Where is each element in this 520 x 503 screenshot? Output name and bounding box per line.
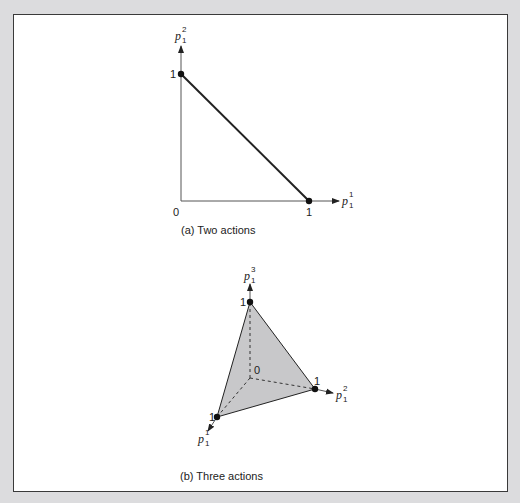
- simplex-segment: [181, 74, 309, 201]
- x-tick-label: 1: [306, 206, 312, 218]
- x-axis-label-sub: 1: [349, 201, 354, 210]
- y-axis-label-sup: 2: [182, 25, 187, 34]
- y-tick-label: 1: [170, 68, 176, 80]
- x-axis-label: p: [341, 194, 348, 208]
- origin-label: 0: [173, 206, 179, 218]
- x-axis-label-sup: 1: [349, 190, 354, 199]
- axis-2-label-sup: 2: [343, 384, 348, 393]
- vertex-2-label: 1: [314, 375, 320, 387]
- vertex-dot-y: [178, 71, 184, 77]
- vertex-3-label: 1: [240, 296, 246, 308]
- simplex-triangle: [217, 302, 315, 417]
- axis-2-label: p: [335, 388, 342, 402]
- axis-1-label-sup: 1: [205, 428, 210, 437]
- y-axis-label-sub: 1: [182, 36, 187, 45]
- axis-1-label-sub: 1: [205, 439, 210, 448]
- vertex-dot-3: [247, 299, 253, 305]
- axis-3-label-sub: 1: [251, 276, 256, 285]
- simplex-figure: p 1 2 1 0 1 p 1 1 (a) Two actions p 1 3: [0, 0, 520, 503]
- axis-2-label-sub: 1: [343, 395, 348, 404]
- caption-b: (b) Three actions: [180, 470, 263, 482]
- vertex-dot-x: [306, 198, 312, 204]
- caption-a: (a) Two actions: [181, 224, 256, 236]
- panel-a: p 1 2 1 0 1 p 1 1 (a) Two actions: [170, 25, 354, 236]
- axis-3-label-sup: 3: [251, 265, 256, 274]
- panel-b: p 1 3 1 0 1 1 p 1 2 p 1 1 (b) Three acti…: [180, 265, 348, 482]
- origin-label-b: 0: [254, 364, 260, 376]
- y-axis-label: p: [174, 29, 181, 43]
- axis-3-label: p: [243, 269, 250, 283]
- vertex-1-label: 1: [209, 411, 215, 423]
- axis-1-label: p: [197, 432, 204, 446]
